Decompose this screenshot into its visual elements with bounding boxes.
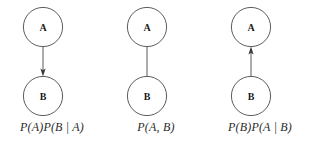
panel-caption-right: P(B)P(A | B) xyxy=(208,120,312,135)
node-a-label: A xyxy=(247,22,255,33)
graph-canvas-middle: A B xyxy=(104,0,208,120)
node-a-label: A xyxy=(143,22,151,33)
panel-caption-left: P(A)P(B | A) xyxy=(0,120,104,135)
panel-caption-middle: P(A, B) xyxy=(104,120,208,135)
graph-panel-right: A B P(B)P(A | B) xyxy=(208,0,312,142)
node-b-label: B xyxy=(144,91,151,102)
node-b-label: B xyxy=(40,91,47,102)
graph-canvas-left: A B xyxy=(0,0,104,120)
node-a-label: A xyxy=(39,22,47,33)
graph-canvas-right: A B xyxy=(208,0,312,120)
bayesian-network-figure: A B P(A)P(B | A) A B P(A, B) A xyxy=(0,0,312,142)
node-b-label: B xyxy=(248,91,255,102)
graph-panel-middle: A B P(A, B) xyxy=(104,0,208,142)
graph-panel-left: A B P(A)P(B | A) xyxy=(0,0,104,142)
